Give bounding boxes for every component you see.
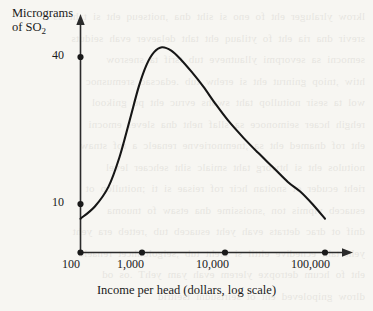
y-axis-title: Micrograms of SO2 [12,6,73,36]
x-tick-100000 [322,249,328,255]
y-tick-10 [77,201,83,207]
y-axis-title-line2: of SO2 [12,20,73,36]
x-axis-title: Income per head (dollars, log scale) [0,283,373,297]
x-tick-label-10000: 10,000 [196,258,229,271]
x-tick-label-100000: 100,000 [291,258,330,271]
y-axis-title-line1: Micrograms [12,6,73,20]
x-tick-label-1000: 1,000 [117,258,144,271]
y-tick-label-10: 10 [52,196,64,209]
x-axis [81,248,354,256]
so2-curve [81,47,326,219]
x-tick-1000 [139,249,145,255]
y-axis-title-line2-prefix: of SO [12,20,42,34]
x-tick-10000 [222,249,228,255]
chart-page: lkrow ylraluger eht fo eno si siht dna ,… [0,0,373,311]
y-tick-40 [77,54,83,60]
x-tick-100 [77,249,83,255]
y-axis-title-subscript: 2 [42,26,47,36]
y-tick-label-40: 40 [52,49,64,62]
x-tick-label-100: 100 [62,258,80,271]
